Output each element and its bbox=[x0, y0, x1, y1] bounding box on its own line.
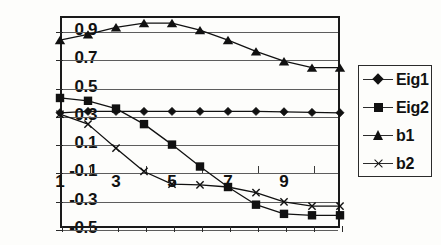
legend-item-eig2[interactable]: Eig2 bbox=[359, 94, 431, 122]
legend-label: b1 bbox=[393, 128, 414, 144]
y-tick bbox=[56, 89, 63, 90]
cross-marker bbox=[363, 154, 393, 174]
y-tick bbox=[56, 32, 63, 33]
x-tick-label: 1 bbox=[50, 173, 70, 190]
gridline bbox=[62, 117, 338, 118]
x-tick bbox=[286, 226, 287, 232]
x-tick-minor bbox=[314, 166, 315, 173]
chart-figure: 0.90.70.50.30.1-0.1-0.3-0.5 13579 Eig1 E… bbox=[0, 0, 441, 245]
x-tick-minor bbox=[202, 166, 203, 173]
y-tick bbox=[56, 117, 63, 118]
y-tick bbox=[56, 145, 63, 146]
gridline bbox=[62, 60, 338, 61]
legend-label: Eig2 bbox=[393, 100, 429, 116]
diamond-marker bbox=[363, 70, 393, 90]
triangle-marker bbox=[363, 126, 393, 146]
x-tick-minor bbox=[258, 166, 259, 173]
x-tick bbox=[258, 226, 259, 232]
legend-label: b2 bbox=[393, 156, 414, 172]
gridline bbox=[62, 202, 338, 203]
plot-area bbox=[60, 16, 340, 228]
x-tick bbox=[62, 226, 63, 232]
chart-legend: Eig1 Eig2 b1 b2 bbox=[358, 65, 432, 177]
legend-item-eig1[interactable]: Eig1 bbox=[359, 66, 431, 94]
x-tick bbox=[342, 226, 343, 232]
gridline bbox=[62, 32, 338, 33]
x-tick-label: 5 bbox=[162, 173, 182, 190]
x-tick-minor bbox=[90, 166, 91, 173]
x-tick bbox=[314, 226, 315, 232]
gridline bbox=[62, 145, 338, 146]
y-tick bbox=[56, 202, 63, 203]
legend-item-b1[interactable]: b1 bbox=[359, 122, 431, 150]
square-marker bbox=[363, 98, 393, 118]
legend-label: Eig1 bbox=[393, 72, 429, 88]
x-tick-label: 3 bbox=[106, 173, 126, 190]
x-tick bbox=[230, 226, 231, 232]
x-tick-label: 7 bbox=[218, 173, 238, 190]
x-tick bbox=[174, 226, 175, 232]
gridline bbox=[62, 230, 338, 231]
x-tick-minor bbox=[146, 166, 147, 173]
x-tick-label: 9 bbox=[274, 173, 294, 190]
x-tick bbox=[90, 226, 91, 232]
x-tick bbox=[202, 226, 203, 232]
legend-item-b2[interactable]: b2 bbox=[359, 150, 431, 178]
gridline bbox=[62, 89, 338, 90]
x-tick bbox=[118, 226, 119, 232]
x-tick bbox=[146, 226, 147, 232]
y-tick bbox=[56, 60, 63, 61]
gridline bbox=[62, 173, 338, 174]
